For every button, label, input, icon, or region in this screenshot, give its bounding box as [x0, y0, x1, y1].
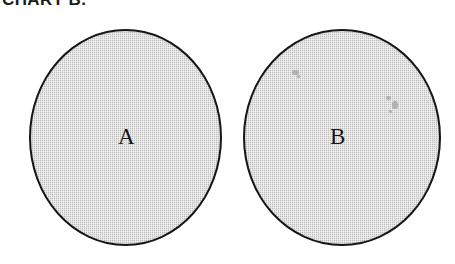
circle-b-label: B — [330, 125, 345, 148]
figure-caption: CHART B. — [2, 0, 86, 9]
circle-a-label: A — [118, 125, 135, 148]
figure-page: CHART B. A B — [0, 0, 455, 264]
